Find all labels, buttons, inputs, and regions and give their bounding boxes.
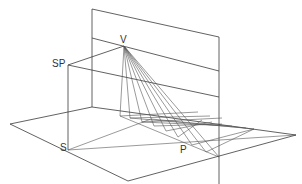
label-sp: SP	[52, 59, 65, 69]
picture-plane	[92, 9, 219, 184]
label-p: P	[180, 145, 187, 155]
perspective-diagram	[0, 0, 302, 184]
vanishing-rays	[120, 46, 219, 157]
label-v: V	[120, 35, 127, 45]
ground-plane	[10, 107, 296, 181]
ground-grid	[120, 112, 254, 157]
horizon-line	[92, 38, 219, 71]
label-s: S	[60, 143, 67, 153]
